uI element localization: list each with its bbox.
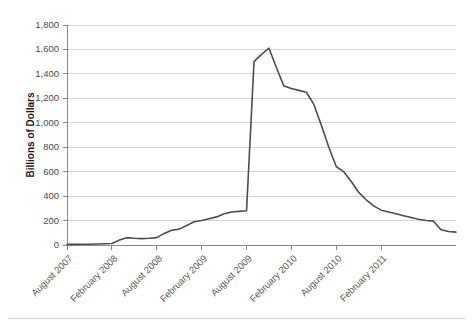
y-tick-label: 1,800 <box>35 19 59 30</box>
y-tick-label: 1,400 <box>35 68 59 79</box>
y-tick-label: 1,600 <box>35 43 59 54</box>
x-tick-label: February 2011 <box>338 253 389 304</box>
y-tick-label: 1,000 <box>35 117 59 128</box>
y-tick-label: 600 <box>43 166 59 177</box>
y-tick-marks-group <box>63 25 67 245</box>
y-axis-title: Billions of Dollars <box>25 92 36 177</box>
y-tick-label: 800 <box>43 141 59 152</box>
x-tick-label: February 2009 <box>158 253 209 304</box>
x-tick-label: August 2010 <box>298 253 344 299</box>
chart-figure: 02004006008001,0001,2001,4001,6001,800 A… <box>0 0 473 327</box>
y-tick-label: 400 <box>43 190 59 201</box>
x-tick-label: August 2009 <box>208 253 254 299</box>
x-tick-label: February 2010 <box>247 253 298 304</box>
x-axis-tick-labels: August 2007February 2008August 2008Febru… <box>29 253 389 304</box>
x-tick-marks-group <box>67 245 381 250</box>
y-axis-tick-labels: 02004006008001,0001,2001,4001,6001,800 <box>35 19 59 250</box>
x-tick-label: August 2008 <box>119 253 165 299</box>
y-tick-label: 1,200 <box>35 92 59 103</box>
line-chart: 02004006008001,0001,2001,4001,6001,800 A… <box>0 0 473 327</box>
y-tick-label: 200 <box>43 215 59 226</box>
x-tick-label: August 2007 <box>29 253 75 299</box>
y-tick-label: 0 <box>54 239 59 250</box>
data-series-line <box>67 48 456 244</box>
x-tick-label: February 2008 <box>68 253 119 304</box>
